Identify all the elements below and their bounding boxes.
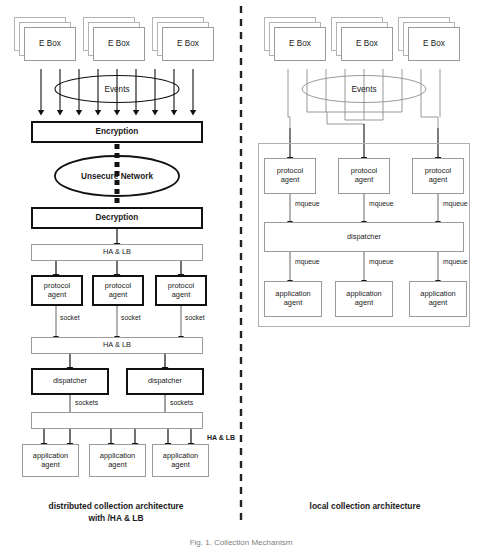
protocol-agent-line2: agent	[172, 290, 191, 299]
ebox-1: E Box	[274, 27, 326, 61]
protocol-agent-line2: agent	[429, 175, 448, 184]
application-agent-line2: agent	[429, 298, 448, 307]
left-edges-protocol-halb	[56, 306, 181, 337]
application-agent-line2: agent	[355, 298, 374, 307]
ebox-1: E Box	[24, 27, 76, 61]
edge-label-mqueue-lower-3: mqueue	[442, 258, 469, 265]
application-agent-3: application agent	[152, 444, 209, 477]
edge-label-socket-3: socket	[184, 314, 206, 321]
dispatcher: dispatcher	[264, 222, 464, 252]
left-edges-halb-protocol	[56, 261, 181, 275]
edge-label-mqueue-lower-2: mqueue	[368, 258, 395, 265]
ebox-2: E Box	[93, 27, 145, 61]
left-panel-caption: distributed collection architecture with…	[10, 500, 222, 524]
protocol-agent-3: protocol agent	[155, 275, 207, 306]
protocol-agent-1: protocol agent	[31, 275, 83, 306]
protocol-agent-line2: agent	[281, 175, 300, 184]
decryption-box: Decryption	[31, 207, 203, 229]
left-edges-halb-dispatcher	[70, 354, 165, 368]
protocol-agent-line2: agent	[355, 175, 374, 184]
unsecure-network-node: Unsecure Network	[55, 168, 179, 185]
ebox-3: E Box	[408, 27, 460, 61]
protocol-agent-line2: agent	[48, 290, 67, 299]
protocol-agent-2: protocol agent	[338, 158, 390, 194]
left-edges-halb-appagents	[44, 429, 191, 444]
edge-label-mqueue-upper-3: mqueue	[442, 200, 469, 207]
diagram-canvas: E Box E Box E Box Events Encryption Unse…	[0, 0, 482, 547]
edge-label-socket-2: socket	[120, 314, 142, 321]
halb-bar-2: HA & LB	[31, 337, 203, 354]
application-agent-2: application agent	[89, 444, 146, 477]
application-agent-line2: agent	[41, 460, 60, 469]
application-agent-1: application agent	[264, 281, 322, 317]
application-agent-line2: agent	[171, 460, 190, 469]
halb-side-label: HA & LB	[206, 434, 236, 441]
halb-bar-1: HA & LB	[31, 244, 203, 261]
halb-bar-3	[31, 412, 203, 429]
encryption-box: Encryption	[31, 121, 203, 143]
right-events-node: Events	[302, 81, 426, 98]
edge-label-mqueue-upper-2: mqueue	[368, 200, 395, 207]
right-panel-caption: local collection architecture	[265, 500, 465, 512]
edge-label-sockets-1: sockets	[74, 399, 99, 406]
left-events-label: Events	[104, 85, 129, 94]
application-agent-2: application agent	[335, 281, 393, 317]
application-agent-line2: agent	[284, 298, 303, 307]
protocol-agent-3: protocol agent	[412, 158, 464, 194]
edge-label-mqueue-upper-1: mqueue	[294, 200, 321, 207]
application-agent-1: application agent	[22, 444, 79, 477]
protocol-agent-2: protocol agent	[92, 275, 144, 306]
protocol-agent-1: protocol agent	[264, 158, 316, 194]
edge-label-sockets-2: sockets	[169, 399, 194, 406]
dispatcher-1: dispatcher	[31, 368, 109, 395]
application-agent-3: application agent	[409, 281, 467, 317]
protocol-agent-line2: agent	[109, 290, 128, 299]
left-events-node: Events	[55, 81, 179, 98]
figure-caption: Fig. 1. Collection Mechanism	[0, 538, 482, 547]
edge-label-socket-1: socket	[59, 314, 81, 321]
application-agent-line2: agent	[108, 460, 127, 469]
ebox-2: E Box	[341, 27, 393, 61]
unsecure-network-label: Unsecure Network	[81, 172, 153, 181]
edge-label-mqueue-lower-1: mqueue	[294, 258, 321, 265]
ebox-3: E Box	[162, 27, 214, 61]
right-events-label: Events	[351, 85, 376, 94]
dispatcher-2: dispatcher	[126, 368, 204, 395]
